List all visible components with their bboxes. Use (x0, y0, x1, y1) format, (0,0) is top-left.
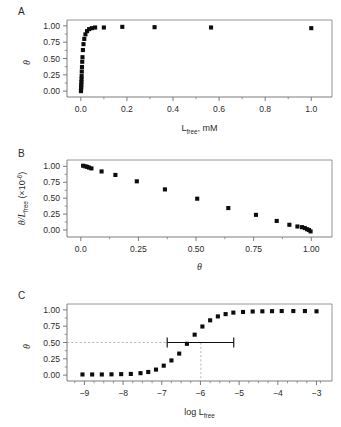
x-tick-label: 0.50 (188, 244, 205, 254)
x-tick-label: 0.0 (75, 104, 87, 114)
data-point (80, 65, 84, 69)
y-tick-label: 0.25 (43, 70, 60, 80)
plot-frame (67, 20, 332, 97)
panel-b-scatchard-plot: B 0.000.250.500.751.000.00.250.500.751.0… (0, 142, 341, 284)
y-tick-label: 0.50 (43, 54, 60, 64)
panel-b-x-axis-title: θ (197, 261, 202, 272)
panel-a-y-axis-title: θ (21, 60, 32, 65)
data-point (254, 213, 258, 217)
data-point (81, 48, 85, 52)
data-point (100, 169, 104, 173)
y-tick-label: 0.50 (43, 193, 60, 203)
x-tick-label: 0.0 (75, 244, 87, 254)
data-point (100, 372, 104, 376)
data-point (251, 309, 255, 313)
panel-a-plot: 0.000.250.500.751.000.00.20.40.60.81.0θL… (0, 0, 341, 142)
data-point (129, 372, 133, 376)
x-tick-label: −6 (196, 388, 206, 398)
data-point (275, 219, 279, 223)
panel-c-plot: 0.000.250.500.751.00−9−8−7−6−5−4−3θlog L… (0, 284, 341, 427)
data-point (309, 26, 313, 30)
data-point (280, 309, 284, 313)
data-point (216, 314, 220, 318)
data-point (80, 60, 84, 64)
panel-b-plot: 0.000.250.500.751.000.00.250.500.751.00θ… (0, 142, 341, 284)
data-point (226, 206, 230, 210)
binding-analysis-figure: A 0.000.250.500.751.000.00.20.40.60.81.0… (0, 0, 341, 427)
data-point (81, 42, 85, 46)
x-tick-label: 1.00 (303, 244, 320, 254)
data-point (154, 368, 158, 372)
x-tick-label: 1.0 (305, 104, 317, 114)
x-tick-label: 0.75 (245, 244, 262, 254)
data-point (80, 70, 84, 74)
x-tick-label: −3 (312, 388, 322, 398)
y-tick-label: 1.00 (43, 305, 60, 315)
data-point (287, 223, 291, 227)
data-point (119, 372, 123, 376)
data-point (195, 197, 199, 201)
data-point (153, 25, 157, 29)
data-point (80, 55, 84, 59)
panel-b-y-axis-title: θ/Lfree (×10-6) (16, 172, 29, 226)
data-point (231, 311, 235, 315)
midpoint-error-bar (167, 338, 234, 348)
data-point (270, 309, 274, 313)
data-point (163, 187, 167, 191)
x-tick-label: 0.2 (121, 104, 133, 114)
y-tick-label: 0.75 (43, 321, 60, 331)
data-point (209, 25, 213, 29)
data-point (169, 358, 173, 362)
x-tick-label: 0.25 (130, 244, 147, 254)
data-point (113, 173, 117, 177)
plot-frame (67, 160, 332, 237)
data-point (82, 37, 86, 41)
panel-a-x-axis-title: Lfree, mM (182, 123, 218, 135)
data-point (162, 364, 166, 368)
data-point (309, 229, 313, 233)
x-tick-label: −4 (273, 388, 283, 398)
data-point (241, 310, 245, 314)
data-point (120, 25, 124, 29)
x-tick-label: −7 (157, 388, 167, 398)
data-point (80, 74, 84, 78)
y-tick-label: 0.25 (43, 209, 60, 219)
y-tick-label: 1.00 (43, 21, 60, 31)
y-tick-label: 0.00 (43, 225, 60, 235)
data-point (291, 309, 295, 313)
y-tick-label: 0.25 (43, 354, 60, 364)
data-point (224, 312, 228, 316)
data-point (102, 25, 106, 29)
x-tick-label: −8 (118, 388, 128, 398)
data-point (93, 25, 97, 29)
y-tick-label: 0.00 (43, 86, 60, 96)
data-point (314, 309, 318, 313)
panel-a-saturation-binding: A 0.000.250.500.751.000.00.20.40.60.81.0… (0, 0, 341, 142)
data-point (135, 179, 139, 183)
x-tick-label: 0.6 (213, 104, 225, 114)
data-point (303, 309, 307, 313)
data-point (193, 333, 197, 337)
y-tick-label: 0.00 (43, 370, 60, 380)
y-tick-label: 0.75 (43, 37, 60, 47)
y-tick-label: 0.75 (43, 177, 60, 187)
data-point (89, 166, 93, 170)
data-point (208, 318, 212, 322)
y-tick-label: 0.50 (43, 338, 60, 348)
x-tick-label: 0.8 (259, 104, 271, 114)
x-tick-label: −9 (80, 388, 90, 398)
data-point (80, 372, 84, 376)
x-tick-label: 0.4 (167, 104, 179, 114)
panel-c-y-axis-title: θ (21, 344, 32, 349)
data-point (200, 324, 204, 328)
data-point (177, 352, 181, 356)
panel-c-log-binding-curve: C 0.000.250.500.751.00−9−8−7−6−5−4−3θlog… (0, 284, 341, 427)
data-point (90, 372, 94, 376)
data-point (146, 370, 150, 374)
data-point (138, 371, 142, 375)
panel-c-x-axis-title: log Lfree (184, 407, 215, 419)
data-point (260, 309, 264, 313)
data-point (109, 372, 113, 376)
x-tick-label: −5 (234, 388, 244, 398)
y-tick-label: 1.00 (43, 161, 60, 171)
